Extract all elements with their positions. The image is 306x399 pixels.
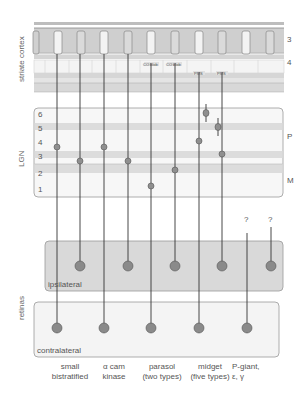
lgn-box: [34, 108, 283, 197]
lgn-layer-4: 4: [38, 138, 42, 148]
label-ipsilateral: ipsilateral: [48, 280, 82, 290]
unknown-mark-1: ?: [244, 215, 248, 225]
label-contralateral: contralateral: [37, 346, 81, 356]
cell-type-line2: ε, γ: [232, 372, 282, 382]
label-striate-cortex: striate cortex: [17, 36, 26, 82]
co-blob-tag-2: CO blob: [166, 60, 181, 70]
label-retinas: retinas: [17, 296, 26, 320]
pms-tag-2: PMS: [217, 69, 226, 79]
lgn-layer-1: 1: [38, 185, 42, 195]
lgn-layer-3: 3: [38, 152, 42, 162]
cell-type-line2: (five types): [180, 372, 240, 382]
lgn-layer-5: 5: [38, 124, 42, 134]
cell-type-line1: midget: [180, 362, 240, 372]
cell-type-p-giant: P-giant, ε, γ: [232, 362, 282, 382]
label-lgn: LGN: [17, 151, 26, 167]
co-blob-tag-1: CO blob: [143, 60, 158, 70]
lgn-layer-6: 6: [38, 110, 42, 120]
pms-tag-1: PMS: [194, 69, 203, 79]
striate-cortex: [33, 22, 284, 92]
lgn-division-m: M: [287, 176, 294, 186]
unknown-mark-2: ?: [268, 215, 272, 225]
cortex-layer-4: 4: [287, 58, 291, 68]
cortex-layer-3: 3: [287, 35, 291, 45]
lgn-division-p: P: [287, 132, 292, 142]
cell-type-midget: midget (five types): [180, 362, 240, 382]
cell-type-line1: P-giant,: [232, 362, 282, 372]
lgn-layer-2: 2: [38, 169, 42, 179]
